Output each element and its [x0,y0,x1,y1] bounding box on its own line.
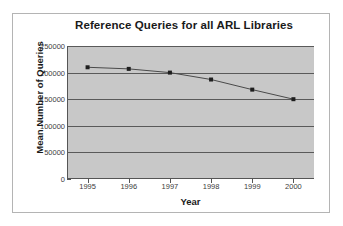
data-point-marker [291,97,295,101]
data-point-marker [168,71,172,75]
x-axis-title: Year [67,196,314,207]
x-axis-tick-labels: 199519961997199819992000 [67,182,314,196]
x-tick-label: 1995 [68,182,108,191]
series-line [88,67,294,99]
x-tick-label: 1999 [232,182,272,191]
data-series [67,46,314,179]
x-tick-label: 1996 [109,182,149,191]
data-point-marker [209,78,213,82]
data-point-marker [127,67,131,71]
x-tick-label: 2000 [273,182,313,191]
x-tick-label: 1998 [191,182,231,191]
chart-title: Reference Queries for all ARL Libraries [53,19,315,31]
plot-area [67,46,314,179]
data-point-marker [250,88,254,92]
x-tick-label: 1997 [150,182,190,191]
y-axis-title: Mean Number of Queries [34,28,45,168]
chart-figure: Reference Queries for all ARL Libraries … [0,0,343,226]
chart-frame: Reference Queries for all ARL Libraries … [12,13,330,213]
data-point-marker [86,65,90,69]
